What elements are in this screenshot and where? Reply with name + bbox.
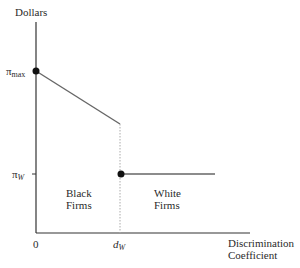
discrimination-diagram xyxy=(0,0,300,268)
black-firms-line1: Black xyxy=(66,187,92,199)
x-axis-label-line2: Coefficient xyxy=(228,249,294,261)
x-axis-label-line1: Discrimination xyxy=(228,237,294,249)
x-axis-label: Discrimination Coefficient xyxy=(228,237,294,261)
d-w-subscript: W xyxy=(119,243,126,252)
pi-max-subscript: max xyxy=(12,70,26,79)
d-w-label: dW xyxy=(113,238,125,250)
black-firm-profit-line xyxy=(36,71,120,124)
black-firms-line2: Firms xyxy=(66,199,92,211)
pi-w-subscript: W xyxy=(18,173,25,182)
pi-max-label: πmax xyxy=(6,65,25,77)
black-firms-label: Black Firms xyxy=(66,187,92,211)
white-firms-label: White Firms xyxy=(154,187,181,211)
pi-w-point xyxy=(118,171,125,178)
white-firms-line2: Firms xyxy=(154,199,181,211)
origin-label: 0 xyxy=(33,238,39,250)
pi-max-point xyxy=(33,68,40,75)
pi-w-label: πW xyxy=(12,168,24,180)
white-firms-line1: White xyxy=(154,187,181,199)
y-axis-label: Dollars xyxy=(15,6,47,18)
